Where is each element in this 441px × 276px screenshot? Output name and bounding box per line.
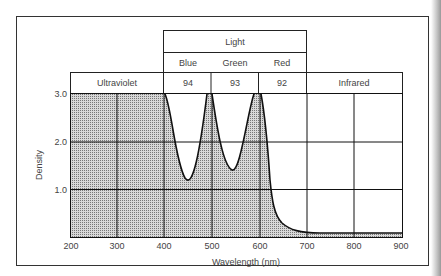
density-chart: Light Blue Green Red Ultraviolet 94 93 9… — [0, 0, 441, 276]
x-tick-200: 200 — [63, 241, 78, 251]
x-axis-label: Wavelength (nm) — [212, 257, 280, 267]
x-tick-700: 700 — [299, 241, 314, 251]
blue-label: Blue — [179, 58, 197, 68]
y-tick-2: 2.0 — [54, 137, 67, 147]
light-label: Light — [225, 37, 245, 47]
y-tick-3: 3.0 — [54, 89, 67, 99]
filter-93-label: 93 — [230, 78, 240, 88]
ultraviolet-label: Ultraviolet — [97, 78, 138, 88]
infrared-label: Infrared — [338, 78, 369, 88]
filter-94-label: 94 — [183, 78, 193, 88]
x-tick-800: 800 — [346, 241, 361, 251]
x-tick-600: 600 — [252, 241, 267, 251]
x-tick-400: 400 — [156, 241, 171, 251]
y-axis-label: Density — [34, 149, 44, 180]
y-tick-1: 1.0 — [54, 185, 67, 195]
x-tick-300: 300 — [109, 241, 124, 251]
filter-92-label: 92 — [277, 78, 287, 88]
x-tick-500: 500 — [204, 241, 219, 251]
green-label: Green — [222, 58, 247, 68]
red-label: Red — [274, 58, 291, 68]
x-tick-900: 900 — [393, 241, 408, 251]
